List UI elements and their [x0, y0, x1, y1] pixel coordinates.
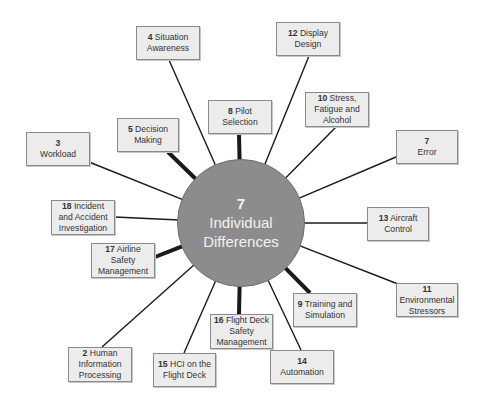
node-label: Aircraft Control — [384, 213, 417, 234]
node-label: Automation — [280, 367, 323, 377]
topic-node-hci-flight-deck: 15 HCI on the Flight Deck — [153, 353, 216, 387]
topic-node-aircraft-control: 13 Aircraft Control — [367, 207, 429, 241]
topic-node-training-simulation: 9 Training and Simulation — [293, 293, 357, 327]
topic-node-display-design: 12 Display Design — [276, 22, 340, 56]
node-number: 4 — [148, 32, 153, 42]
hub-label-line1: Individual — [209, 213, 272, 232]
topic-node-pilot-selection: 8 Pilot Selection — [208, 100, 272, 134]
node-number: 13 — [379, 213, 389, 223]
connector-line-n7 — [298, 157, 396, 199]
central-topic-individual-differences: 7 Individual Differences — [177, 159, 305, 287]
node-label: Flight Deck Safety Management — [216, 315, 269, 347]
topic-node-airline-safety-management: 17 Airline Safety Management — [91, 243, 155, 278]
topic-node-stress-fatigue-alcohol: 10 Stress, Fatigue and Alcohol — [305, 92, 369, 127]
node-number: 16 — [214, 315, 224, 325]
node-number: 2 — [83, 348, 88, 358]
node-number: 5 — [128, 124, 133, 134]
node-label: Decision Making — [134, 124, 168, 145]
node-number: 8 — [228, 106, 233, 116]
node-number: 10 — [318, 93, 328, 103]
node-label: Situation Awareness — [147, 32, 189, 53]
connector-line-n10 — [285, 127, 336, 179]
topic-node-automation: 14Automation — [270, 350, 334, 384]
topic-node-flight-deck-safety-management: 16 Flight Deck Safety Management — [210, 314, 273, 349]
connector-line-n11 — [299, 245, 398, 284]
node-number: 18 — [62, 201, 72, 211]
connector-line-n9 — [285, 267, 310, 293]
hub-and-spoke-diagram: 7 Individual Differences 4 Situation Awa… — [0, 0, 484, 403]
node-label: Environmental Stressors — [400, 295, 455, 316]
node-number: 14 — [297, 356, 307, 366]
node-number: 3 — [56, 138, 61, 148]
topic-node-error: 7Error — [396, 130, 458, 164]
connector-line-n5 — [168, 152, 197, 180]
topic-node-decision-making: 5 Decision Making — [117, 118, 179, 152]
node-number: 7 — [425, 136, 430, 146]
connector-line-n17 — [155, 246, 183, 257]
topic-node-situation-awareness: 4 Situation Awareness — [136, 26, 200, 60]
connector-line-n18 — [115, 217, 179, 220]
node-number: 11 — [422, 284, 431, 294]
node-label: Display Design — [295, 28, 328, 49]
hub-label-line2: Differences — [203, 232, 279, 251]
node-number: 17 — [105, 244, 115, 254]
node-number: 9 — [298, 299, 303, 309]
node-label: Error — [417, 147, 436, 157]
connector-line-n8 — [239, 134, 240, 161]
connector-line-n3 — [89, 162, 183, 200]
hub-number: 7 — [237, 195, 245, 213]
node-label: Workload — [40, 149, 76, 159]
topic-node-environmental-stressors: 11Environmental Stressors — [396, 283, 458, 317]
node-label: Training and Simulation — [305, 299, 352, 320]
connector-line-n16 — [239, 285, 240, 314]
topic-node-workload: 3Workload — [26, 132, 90, 166]
topic-node-incident-accident-investigation: 18 Incident and Accident Investigation — [51, 200, 115, 235]
topic-node-human-information-processing: 2 Human Information Processing — [68, 347, 132, 382]
node-number: 15 — [158, 359, 168, 369]
node-label: HCI on the Flight Deck — [163, 359, 211, 380]
node-number: 12 — [288, 28, 298, 38]
